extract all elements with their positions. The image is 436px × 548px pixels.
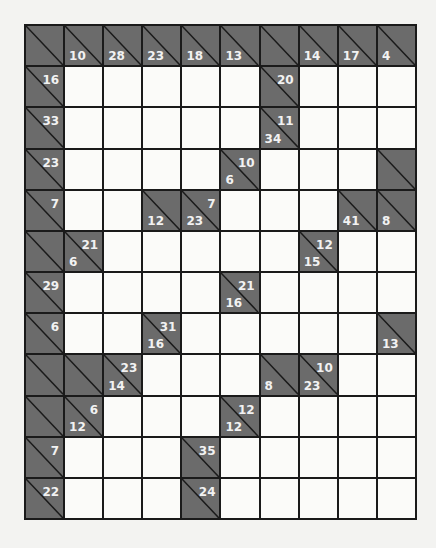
entry-cell[interactable]	[143, 150, 180, 189]
entry-cell[interactable]	[65, 479, 102, 518]
down-clue: 16	[147, 338, 164, 350]
entry-cell[interactable]	[104, 232, 141, 271]
entry-cell[interactable]	[104, 273, 141, 312]
entry-cell[interactable]	[65, 150, 102, 189]
entry-cell[interactable]	[378, 273, 415, 312]
entry-cell[interactable]	[339, 355, 376, 394]
entry-cell[interactable]	[339, 314, 376, 353]
entry-cell[interactable]	[300, 67, 337, 106]
entry-cell[interactable]	[300, 314, 337, 353]
entry-cell[interactable]	[221, 438, 258, 477]
entry-cell[interactable]	[143, 67, 180, 106]
entry-cell[interactable]	[261, 191, 298, 230]
across-clue: 35	[199, 445, 216, 457]
entry-cell[interactable]	[182, 67, 219, 106]
entry-cell[interactable]	[300, 108, 337, 147]
entry-cell[interactable]	[300, 191, 337, 230]
entry-cell[interactable]	[339, 150, 376, 189]
entry-cell[interactable]	[300, 273, 337, 312]
entry-cell[interactable]	[221, 67, 258, 106]
down-clue: 12	[69, 421, 86, 433]
entry-cell[interactable]	[104, 314, 141, 353]
clue-cell: 41	[339, 191, 376, 230]
entry-cell[interactable]	[261, 397, 298, 436]
across-clue: 33	[42, 115, 59, 127]
entry-cell[interactable]	[339, 397, 376, 436]
entry-cell[interactable]	[143, 273, 180, 312]
entry-cell[interactable]	[300, 438, 337, 477]
clue-cell: 1215	[300, 232, 337, 271]
entry-cell[interactable]	[339, 479, 376, 518]
down-clue: 23	[304, 380, 321, 392]
entry-cell[interactable]	[104, 479, 141, 518]
across-clue: 20	[277, 74, 294, 86]
entry-cell[interactable]	[261, 479, 298, 518]
entry-cell[interactable]	[221, 355, 258, 394]
clue-cell	[378, 150, 415, 189]
entry-cell[interactable]	[182, 108, 219, 147]
clue-cell: 23	[143, 26, 180, 65]
entry-cell[interactable]	[182, 232, 219, 271]
entry-cell[interactable]	[261, 438, 298, 477]
entry-cell[interactable]	[261, 232, 298, 271]
entry-cell[interactable]	[104, 397, 141, 436]
entry-cell[interactable]	[65, 438, 102, 477]
entry-cell[interactable]	[182, 314, 219, 353]
entry-cell[interactable]	[104, 108, 141, 147]
entry-cell[interactable]	[300, 397, 337, 436]
entry-cell[interactable]	[182, 397, 219, 436]
entry-cell[interactable]	[65, 273, 102, 312]
entry-cell[interactable]	[339, 438, 376, 477]
entry-cell[interactable]	[65, 108, 102, 147]
entry-cell[interactable]	[143, 438, 180, 477]
entry-cell[interactable]	[339, 67, 376, 106]
entry-cell[interactable]	[104, 191, 141, 230]
entry-cell[interactable]	[143, 355, 180, 394]
entry-cell[interactable]	[378, 397, 415, 436]
entry-cell[interactable]	[378, 438, 415, 477]
entry-cell[interactable]	[182, 355, 219, 394]
entry-cell[interactable]	[65, 314, 102, 353]
entry-cell[interactable]	[104, 438, 141, 477]
entry-cell[interactable]	[143, 108, 180, 147]
entry-cell[interactable]	[300, 479, 337, 518]
entry-cell[interactable]	[182, 273, 219, 312]
entry-cell[interactable]	[65, 67, 102, 106]
entry-cell[interactable]	[221, 108, 258, 147]
entry-cell[interactable]	[378, 355, 415, 394]
entry-cell[interactable]	[143, 479, 180, 518]
entry-cell[interactable]	[378, 479, 415, 518]
entry-cell[interactable]	[221, 232, 258, 271]
entry-cell[interactable]	[339, 273, 376, 312]
across-clue: 6	[90, 404, 98, 416]
clue-cell: 24	[182, 479, 219, 518]
entry-cell[interactable]	[143, 232, 180, 271]
down-clue: 13	[382, 338, 399, 350]
entry-cell[interactable]	[65, 191, 102, 230]
across-clue: 12	[238, 404, 255, 416]
entry-cell[interactable]	[221, 314, 258, 353]
entry-cell[interactable]	[104, 67, 141, 106]
entry-cell[interactable]	[143, 397, 180, 436]
entry-cell[interactable]	[378, 108, 415, 147]
entry-cell[interactable]	[221, 479, 258, 518]
clue-cell: 8	[261, 355, 298, 394]
clue-cell: 7	[26, 191, 63, 230]
entry-cell[interactable]	[339, 232, 376, 271]
entry-cell[interactable]	[261, 150, 298, 189]
entry-cell[interactable]	[300, 150, 337, 189]
entry-cell[interactable]	[261, 314, 298, 353]
across-clue: 7	[51, 445, 59, 457]
across-clue: 23	[42, 157, 59, 169]
entry-cell[interactable]	[378, 232, 415, 271]
entry-cell[interactable]	[221, 191, 258, 230]
entry-cell[interactable]	[182, 150, 219, 189]
clue-cell: 4	[378, 26, 415, 65]
entry-cell[interactable]	[104, 150, 141, 189]
entry-cell[interactable]	[261, 273, 298, 312]
entry-cell[interactable]	[378, 67, 415, 106]
entry-cell[interactable]	[339, 108, 376, 147]
clue-cell: 106	[221, 150, 258, 189]
clue-cell: 12	[143, 191, 180, 230]
clue-cell	[26, 355, 63, 394]
